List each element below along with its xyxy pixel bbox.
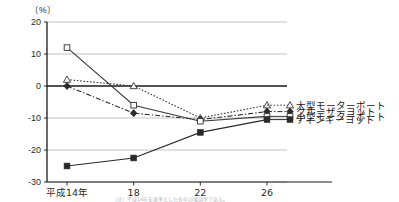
- data-point-marker: [130, 110, 136, 117]
- series-1: [64, 82, 270, 123]
- y-tick-label: -30: [28, 177, 41, 187]
- series-line: [67, 120, 267, 166]
- y-tick-label: -20: [28, 145, 41, 155]
- data-point-marker: [131, 155, 137, 161]
- data-point-marker: [197, 130, 203, 136]
- y-tick-label: 10: [31, 49, 41, 59]
- series-0: [63, 76, 270, 121]
- y-gridlines: 20100-10-20-30: [28, 17, 287, 187]
- legend-item: ディンギーヨット: [267, 114, 375, 125]
- series-3: [64, 117, 270, 169]
- data-point-marker: [64, 45, 70, 51]
- series-line: [67, 86, 267, 120]
- data-point-marker: [64, 163, 70, 169]
- y-tick-label: -10: [28, 113, 41, 123]
- chart-container: 20100-10-20-30〔%〕平成14年182226大型モーターボートクルー…: [0, 0, 399, 202]
- data-point-marker: [64, 82, 70, 89]
- y-tick-label: 20: [31, 17, 41, 27]
- data-point-marker: [198, 118, 204, 124]
- line-chart: 20100-10-20-30〔%〕平成14年182226大型モーターボートクルー…: [0, 0, 399, 202]
- y-tick-label: 0: [36, 81, 41, 91]
- y-unit-label: 〔%〕: [30, 5, 56, 15]
- data-point-marker: [131, 102, 137, 108]
- x-tick-label: 平成14年: [46, 187, 88, 198]
- data-point-marker: [63, 76, 70, 82]
- chart-caption: （注）平成14年を基準とした各年の増減率である。: [112, 196, 392, 202]
- series-line: [67, 48, 267, 122]
- series-2: [64, 45, 270, 124]
- legend: 大型モーターボートクルーザーヨット小型モーターボートディンギーヨット: [267, 100, 386, 125]
- data-point-marker: [287, 117, 293, 123]
- legend-label: ディンギーヨット: [296, 114, 375, 125]
